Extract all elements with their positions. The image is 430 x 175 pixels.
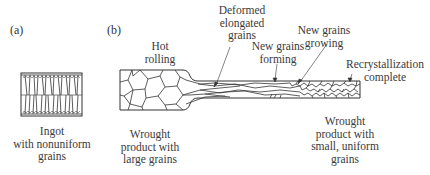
small-grains-caption: Wrought product with small, uniform grai…	[300, 115, 390, 165]
label-line: forming	[246, 53, 310, 66]
caption-line: small, uniform	[300, 140, 390, 153]
caption-line: product with	[300, 128, 390, 141]
rolled-product-shape	[120, 70, 360, 110]
new-grains-growing-annotation: New grains growing	[292, 24, 356, 49]
panel-a-label: (a)	[10, 23, 23, 38]
label-line: complete	[340, 71, 430, 84]
caption-line: product with	[110, 141, 190, 154]
caption-line: Wrought	[110, 128, 190, 141]
recrystallization-complete-annotation: Recrystallization complete	[340, 58, 430, 83]
caption-line: Ingot	[12, 125, 92, 138]
caption-line: grains	[300, 153, 390, 166]
large-grains-caption: Wrought product with large grains	[110, 128, 190, 166]
caption-line: grains	[12, 150, 92, 163]
hot-rolling-diagram: (a) (b) Ingot with nonuniform grains Hot…	[0, 0, 430, 175]
hot-rolling-label: Hot rolling	[140, 40, 180, 65]
caption-line: with nonuniform	[12, 138, 92, 151]
caption-line: Wrought	[300, 115, 390, 128]
label-line: rolling	[140, 53, 180, 66]
label-line: growing	[292, 37, 356, 50]
label-line: Deformed	[212, 4, 272, 17]
label-line: New grains	[292, 24, 356, 37]
label-line: Hot	[140, 40, 180, 53]
deformed-grains-annotation: Deformed elongated grains	[212, 4, 272, 42]
ingot-shape	[21, 73, 82, 116]
caption-line: large grains	[110, 153, 190, 166]
panel-b-label: (b)	[107, 23, 121, 38]
ingot-caption: Ingot with nonuniform grains	[12, 125, 92, 163]
label-line: Recrystallization	[340, 58, 430, 71]
label-line: elongated	[212, 17, 272, 30]
